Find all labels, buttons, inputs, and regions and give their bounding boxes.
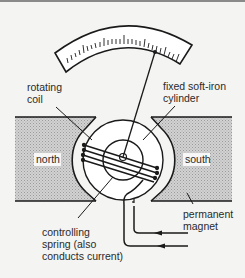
svg-text:rotating: rotating	[27, 81, 62, 93]
label-permanent-magnet: permanent magnet	[183, 208, 233, 232]
svg-text:north: north	[36, 153, 60, 165]
label-south-pole: south	[183, 153, 211, 166]
label-north-pole: north	[34, 153, 61, 166]
svg-text:conducts current): conducts current)	[42, 250, 123, 262]
moving-coil-meter-diagram: rotating coil fixed soft-iron cylinder n…	[0, 0, 245, 278]
svg-text:spring (also: spring (also	[42, 238, 96, 250]
label-controlling-spring: controlling spring (also conducts curren…	[42, 226, 123, 262]
svg-text:coil: coil	[27, 93, 43, 105]
svg-text:permanent: permanent	[183, 208, 233, 220]
svg-text:magnet: magnet	[183, 220, 218, 232]
current-arrow-in	[154, 231, 162, 236]
label-rotating-coil: rotating coil	[27, 81, 62, 105]
svg-text:south: south	[185, 153, 211, 165]
svg-text:cylinder: cylinder	[163, 92, 200, 104]
current-arrow-out	[157, 244, 165, 249]
svg-text:controlling: controlling	[42, 226, 90, 238]
meter-scale	[55, 26, 192, 72]
svg-text:fixed soft-iron: fixed soft-iron	[163, 80, 226, 92]
label-fixed-soft-iron-cylinder: fixed soft-iron cylinder	[163, 80, 226, 104]
